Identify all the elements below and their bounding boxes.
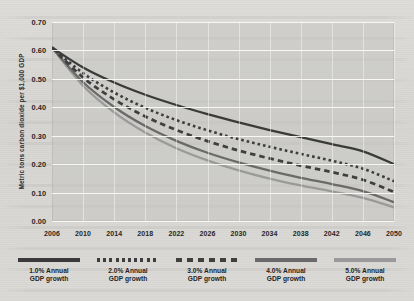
legend-swatch-icon — [334, 258, 396, 262]
legend-swatch-icon — [97, 258, 159, 262]
legend-item[interactable]: 4.0% AnnualGDP growth — [249, 252, 323, 284]
y-axis-tick-label: 0.00 — [6, 217, 46, 226]
legend-label-line2: GDP growth — [91, 275, 165, 283]
gridline-horizontal — [52, 193, 394, 194]
legend-label-line2: GDP growth — [249, 275, 323, 283]
gridline-vertical — [239, 22, 240, 221]
gridline-horizontal — [52, 50, 394, 51]
legend-label-line1: 5.0% Annual — [328, 267, 402, 275]
legend-label-line1: 1.0% Annual — [12, 267, 86, 275]
series-line — [52, 48, 394, 192]
gridline-vertical — [332, 22, 333, 221]
legend-label-line1: 3.0% Annual — [170, 267, 244, 275]
gridline-vertical — [301, 22, 302, 221]
legend-item[interactable]: 5.0% AnnualGDP growth — [328, 252, 402, 284]
gridline-horizontal — [52, 221, 394, 222]
series-line — [52, 48, 394, 182]
legend-label-line1: 2.0% Annual — [91, 267, 165, 275]
gridline-horizontal — [52, 22, 394, 23]
legend-label-line1: 4.0% Annual — [249, 267, 323, 275]
legend-label-line2: GDP growth — [170, 275, 244, 283]
gridline-horizontal — [52, 136, 394, 137]
y-axis-title: Metric tons carbon dioxide per $1,000 GD… — [18, 17, 25, 227]
legend-item[interactable]: 2.0% AnnualGDP growth — [91, 252, 165, 284]
y-axis-tick-label: 0.60 — [6, 46, 46, 55]
gridline-vertical — [83, 22, 84, 221]
gridline-horizontal — [52, 164, 394, 165]
gridline-vertical — [176, 22, 177, 221]
y-axis-tick-label: 0.50 — [6, 75, 46, 84]
y-axis-tick-label: 0.10 — [6, 189, 46, 198]
legend-label-line2: GDP growth — [12, 275, 86, 283]
plot-area — [52, 22, 394, 221]
gridline-vertical — [208, 22, 209, 221]
y-axis-tick-label: 0.40 — [6, 103, 46, 112]
gridline-horizontal — [52, 79, 394, 80]
legend-item[interactable]: 3.0% AnnualGDP growth — [170, 252, 244, 284]
y-axis-tick-label: 0.70 — [6, 18, 46, 27]
x-axis-tick-label: 2050 — [374, 230, 414, 237]
chart-legend: 1.0% AnnualGDP growth2.0% AnnualGDP grow… — [6, 252, 408, 296]
gridline-horizontal — [52, 107, 394, 108]
legend-swatch-icon — [176, 258, 238, 262]
legend-swatch-icon — [255, 258, 317, 262]
gridline-vertical — [270, 22, 271, 221]
series-lines — [52, 22, 394, 221]
gridline-vertical — [145, 22, 146, 221]
chart-figure: Metric tons carbon dioxide per $1,000 GD… — [0, 0, 414, 301]
y-axis-tick-label: 0.20 — [6, 160, 46, 169]
gridline-vertical — [394, 22, 395, 221]
series-line — [52, 48, 394, 208]
gridline-vertical — [114, 22, 115, 221]
series-line — [52, 48, 394, 203]
legend-label-line2: GDP growth — [328, 275, 402, 283]
legend-swatch-icon — [18, 258, 80, 262]
y-axis-tick-label: 0.30 — [6, 132, 46, 141]
legend-item[interactable]: 1.0% AnnualGDP growth — [12, 252, 86, 284]
gridline-vertical — [363, 22, 364, 221]
